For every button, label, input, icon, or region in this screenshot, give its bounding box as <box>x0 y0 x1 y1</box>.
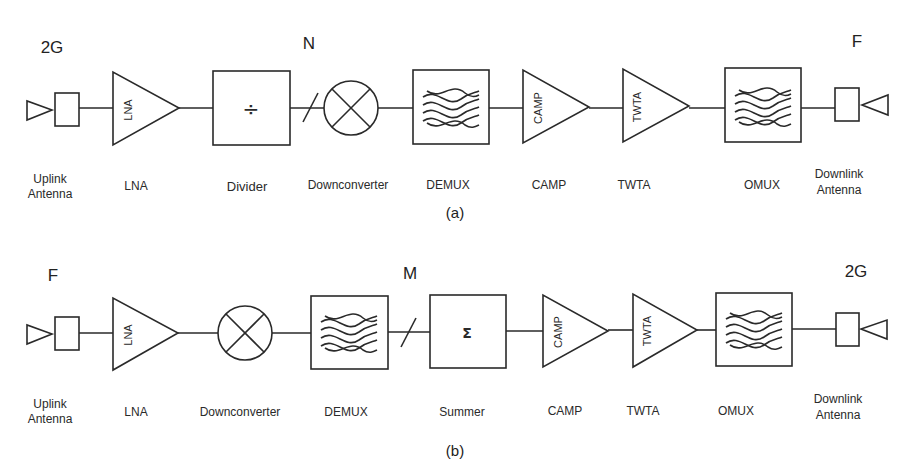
label-lna: LNA <box>124 179 147 193</box>
label-downconverter: Downconverter <box>200 405 281 419</box>
divider-block-a: ÷ <box>213 71 290 145</box>
marker-2g: 2G <box>41 38 64 57</box>
label-uplink: Uplink <box>33 397 67 411</box>
svg-text:Antenna: Antenna <box>817 183 862 197</box>
transponder-diagram: 2G N F LNA ÷ <box>0 0 917 476</box>
label-summer: Summer <box>439 405 484 419</box>
caption-b: (b) <box>446 442 464 459</box>
label-camp: CAMP <box>532 178 567 192</box>
label-demux: DEMUX <box>324 405 367 419</box>
svg-text:CAMP: CAMP <box>532 92 544 124</box>
svg-text:÷: ÷ <box>243 97 260 121</box>
camp-amplifier-a: CAMP <box>523 70 589 143</box>
label-demux: DEMUX <box>426 178 469 192</box>
uplink-antenna-b <box>27 317 79 350</box>
demux-filter-a <box>413 70 489 144</box>
demux-filter-b <box>311 296 388 369</box>
svg-text:LNA: LNA <box>122 324 134 346</box>
twta-amplifier-b: TWTA <box>633 294 697 367</box>
omux-filter-a <box>725 68 801 142</box>
caption-a: (a) <box>446 204 464 221</box>
svg-text:LNA: LNA <box>122 99 134 121</box>
diagram-b: F M 2G LNA <box>27 262 887 459</box>
marker-n: N <box>303 34 315 53</box>
svg-text:TWTA: TWTA <box>631 91 643 122</box>
svg-text:Antenna: Antenna <box>28 187 73 201</box>
label-omux: OMUX <box>744 178 780 192</box>
twta-amplifier-a: TWTA <box>623 69 689 142</box>
downlink-antenna-b <box>836 313 887 346</box>
summer-block-b: Σ <box>430 295 506 368</box>
label-lna: LNA <box>124 405 147 419</box>
diagram-a: 2G N F LNA ÷ <box>27 32 888 221</box>
label-camp: CAMP <box>548 404 583 418</box>
svg-text:Antenna: Antenna <box>28 412 73 426</box>
label-twta: TWTA <box>626 404 659 418</box>
svg-text:Σ: Σ <box>462 325 472 341</box>
marker-f: F <box>852 32 862 51</box>
label-twta: TWTA <box>617 178 650 192</box>
lna-amplifier-b: LNA <box>113 298 178 370</box>
omux-filter-b <box>716 293 792 366</box>
label-downconverter: Downconverter <box>308 178 389 192</box>
label-divider: Divider <box>227 179 268 194</box>
marker-f: F <box>48 266 58 285</box>
downconverter-mixer-b <box>218 306 272 360</box>
svg-text:TWTA: TWTA <box>641 315 653 346</box>
downconverter-mixer-a <box>324 81 378 135</box>
camp-amplifier-b: CAMP <box>543 295 608 367</box>
marker-2g: 2G <box>845 262 868 281</box>
svg-text:Antenna: Antenna <box>816 408 861 422</box>
label-omux: OMUX <box>718 404 754 418</box>
label-downlink: Downlink <box>815 167 865 181</box>
downlink-antenna-a <box>835 88 888 121</box>
uplink-antenna-a <box>27 93 79 126</box>
svg-text:CAMP: CAMP <box>552 316 564 348</box>
marker-m: M <box>403 264 417 283</box>
label-downlink: Downlink <box>814 392 864 406</box>
lna-amplifier-a: LNA <box>113 72 179 145</box>
label-uplink: Uplink <box>33 172 67 186</box>
